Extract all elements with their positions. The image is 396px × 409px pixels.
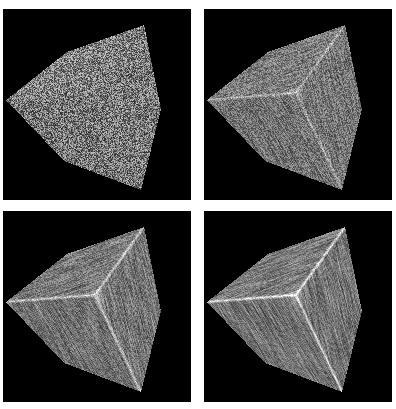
cube-render-panel-top-right: [204, 9, 392, 200]
cube-canvas-raw-noise: [3, 9, 191, 200]
cube-canvas-filtered-2: [3, 211, 191, 402]
cube-render-panel-bottom-left: [3, 211, 191, 402]
cube-render-panel-bottom-right: [204, 211, 392, 402]
cube-canvas-filtered-3: [204, 211, 392, 402]
cube-canvas-filtered-1: [204, 9, 392, 200]
cube-render-panel-top-left: [3, 9, 191, 200]
